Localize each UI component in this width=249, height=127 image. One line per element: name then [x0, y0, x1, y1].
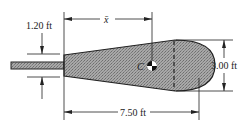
centroid-label: C [137, 61, 144, 72]
rod [11, 62, 64, 69]
rod-gap-label: 1.20 ft [26, 20, 52, 31]
rod-gap-dimension: 1.20 ft [26, 20, 60, 99]
xbar-label: x̄ [103, 14, 109, 25]
xbar-dimension: x̄ [64, 14, 152, 25]
width-label: 3.00 ft [211, 60, 237, 71]
length-dimension: 7.50 ft [64, 107, 199, 118]
diagram-canvas: C x̄ 7.50 ft 1.20 ft 3.00 [0, 0, 249, 127]
length-label: 7.50 ft [120, 107, 146, 118]
